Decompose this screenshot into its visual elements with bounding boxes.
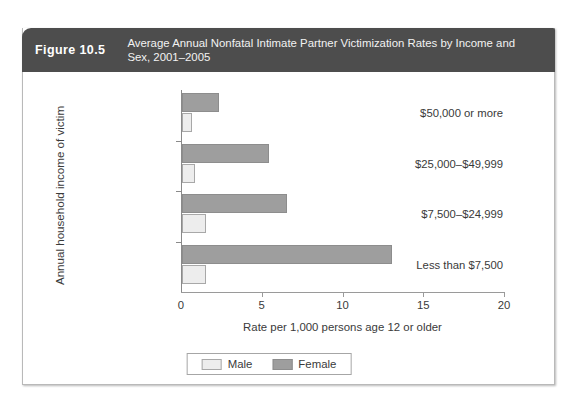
- x-axis-label: 5: [242, 299, 282, 311]
- legend-swatch-female: [272, 359, 292, 370]
- x-axis-label: 0: [161, 299, 201, 311]
- figure-number: Figure 10.5: [22, 43, 109, 57]
- x-axis-label: 10: [323, 299, 363, 311]
- legend-item: Male: [202, 358, 253, 370]
- bar-female: [182, 144, 269, 163]
- bar-male: [182, 113, 192, 132]
- legend-item: Female: [272, 358, 336, 370]
- bar-male: [182, 214, 206, 233]
- y-axis-label: $7,500–$24,999: [343, 208, 503, 220]
- y-axis-title: Annual household income of victim: [53, 96, 66, 296]
- legend-label: Male: [228, 358, 253, 370]
- x-axis-tick: [423, 292, 424, 297]
- y-axis-label: $25,000–$49,999: [343, 158, 503, 170]
- y-axis-tick: [176, 242, 181, 243]
- plot-region: $50,000 or more$25,000–$49,999$7,500–$24…: [181, 90, 511, 292]
- x-axis-tick: [262, 292, 263, 297]
- legend-label: Female: [298, 358, 336, 370]
- chart-area: Annual household income of victim $50,00…: [22, 72, 555, 385]
- x-axis-label: 20: [484, 299, 524, 311]
- figure-title: Average Annual Nonfatal Intimate Partner…: [109, 36, 555, 65]
- x-axis-title: Rate per 1,000 persons age 12 or older: [181, 321, 504, 333]
- x-axis-tick: [504, 292, 505, 297]
- y-axis-tick: [176, 141, 181, 142]
- bar-male: [182, 164, 195, 183]
- legend-swatch-male: [202, 359, 222, 370]
- bar-female: [182, 93, 219, 112]
- figure-header-bar: Figure 10.5 Average Annual Nonfatal Inti…: [22, 28, 555, 72]
- y-axis-tick: [176, 191, 181, 192]
- bar-male: [182, 265, 206, 284]
- x-axis-tick: [343, 292, 344, 297]
- chart-legend: MaleFemale: [187, 353, 352, 375]
- bar-female: [182, 194, 287, 213]
- y-axis-label: Less than $7,500: [343, 259, 503, 271]
- y-axis-label: $50,000 or more: [343, 107, 503, 119]
- x-axis-label: 15: [403, 299, 443, 311]
